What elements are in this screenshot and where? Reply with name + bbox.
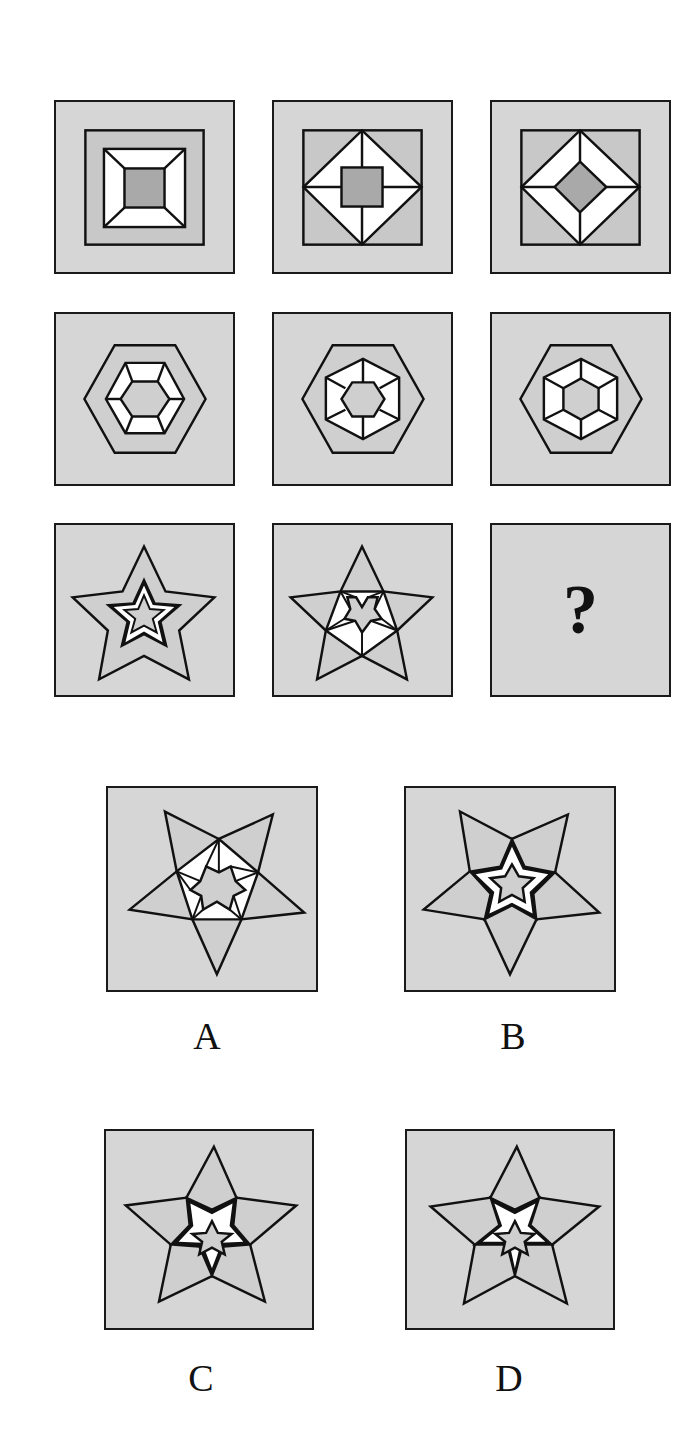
grid-cell-3-2: [272, 523, 453, 697]
option-c-label[interactable]: C: [171, 1356, 231, 1400]
option-d-figure: [407, 1131, 613, 1328]
spoked-hexagons-figure: [492, 314, 669, 484]
nested-stars-figure: [56, 525, 233, 695]
grid-cell-3-3-missing: ?: [490, 523, 671, 697]
option-c-figure: [106, 1131, 312, 1328]
nested-hexagons-figure: [56, 314, 233, 484]
grid-cell-2-1: [54, 312, 235, 486]
spoked-star-figure: [274, 525, 451, 695]
diamond-square-figure: [274, 102, 451, 272]
question-mark: ?: [492, 525, 669, 695]
diamond-frame-figure: [492, 102, 669, 272]
nested-squares-figure: [56, 102, 233, 272]
option-b-label[interactable]: B: [483, 1014, 543, 1058]
option-d-label[interactable]: D: [479, 1356, 539, 1400]
grid-cell-1-1: [54, 100, 235, 274]
option-a-figure: [108, 788, 316, 990]
option-b-panel[interactable]: [404, 786, 616, 992]
option-b-figure: [406, 788, 614, 990]
option-d-panel[interactable]: [405, 1129, 615, 1330]
grid-cell-2-3: [490, 312, 671, 486]
grid-cell-2-2: [272, 312, 453, 486]
option-c-panel[interactable]: [104, 1129, 314, 1330]
rotated-hexagons-figure: [274, 314, 451, 484]
grid-cell-1-2: [272, 100, 453, 274]
grid-cell-3-1: [54, 523, 235, 697]
grid-cell-1-3: [490, 100, 671, 274]
option-a-label[interactable]: A: [177, 1014, 237, 1058]
option-a-panel[interactable]: [106, 786, 318, 992]
